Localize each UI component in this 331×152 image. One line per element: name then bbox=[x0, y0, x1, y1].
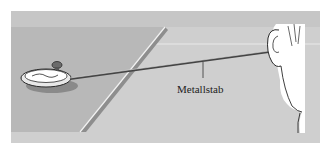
metallstab-label: Metallstab bbox=[177, 83, 224, 95]
watch-stem bbox=[55, 67, 59, 70]
metal-rod-sound-diagram: Metallstab bbox=[0, 0, 331, 152]
wall-strip bbox=[11, 11, 320, 27]
diagram-canvas: Metallstab bbox=[0, 0, 331, 152]
